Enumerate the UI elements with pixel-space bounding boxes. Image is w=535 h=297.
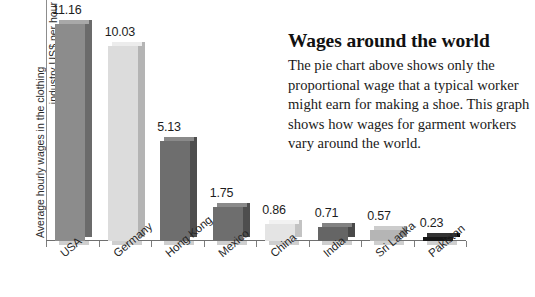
panel-body-text: The pie chart above shows only the propo… — [288, 56, 532, 154]
bar-body — [160, 141, 190, 241]
x-axis-tick — [466, 241, 467, 247]
x-axis-tick — [414, 241, 415, 247]
bar-value-label: 0.23 — [420, 216, 444, 230]
panel-title: Wages around the world — [288, 30, 532, 52]
x-axis-tick — [256, 241, 257, 247]
bar-value-label: 0.86 — [262, 203, 286, 217]
bar-top-face — [164, 137, 194, 141]
bar-front-face — [55, 24, 85, 241]
x-axis-tick — [204, 241, 205, 247]
bar-value-label: 11.16 — [52, 3, 81, 17]
bar-top-face — [269, 220, 299, 224]
bar-value-label: 0.71 — [315, 206, 339, 220]
bar-usa: 11.16 — [55, 24, 85, 241]
bar-front-face — [160, 141, 190, 241]
bar-body — [55, 24, 85, 241]
x-axis-tick — [46, 241, 47, 247]
bar-top-face — [112, 42, 142, 46]
bar-value-label: 5.13 — [157, 120, 181, 134]
bar-top-face — [59, 20, 89, 24]
bar-value-label: 1.75 — [210, 186, 234, 200]
x-axis-tick — [99, 241, 100, 247]
bar-value-label: 0.57 — [367, 209, 391, 223]
bar-value-label: 10.03 — [105, 25, 135, 39]
bar-hong-kong: 5.13 — [160, 141, 190, 241]
bar-side-face — [138, 42, 145, 237]
bar-body — [108, 46, 138, 241]
y-axis-label-line1: Average hourly wages in the clothing — [34, 67, 46, 238]
chart-page: Average hourly wages in the clothing ind… — [0, 0, 535, 297]
x-axis-tick — [151, 241, 152, 247]
y-axis-label-wrap: Average hourly wages in the clothing ind… — [0, 0, 44, 240]
x-axis-tick — [309, 241, 310, 247]
bar-germany: 10.03 — [108, 46, 138, 241]
x-axis-tick — [361, 241, 362, 247]
bar-top-face — [217, 203, 247, 207]
side-text-panel: Wages around the world The pie chart abo… — [288, 30, 532, 154]
bar-top-face — [322, 223, 352, 227]
bar-front-face — [108, 46, 138, 241]
bar-side-face — [85, 20, 92, 237]
